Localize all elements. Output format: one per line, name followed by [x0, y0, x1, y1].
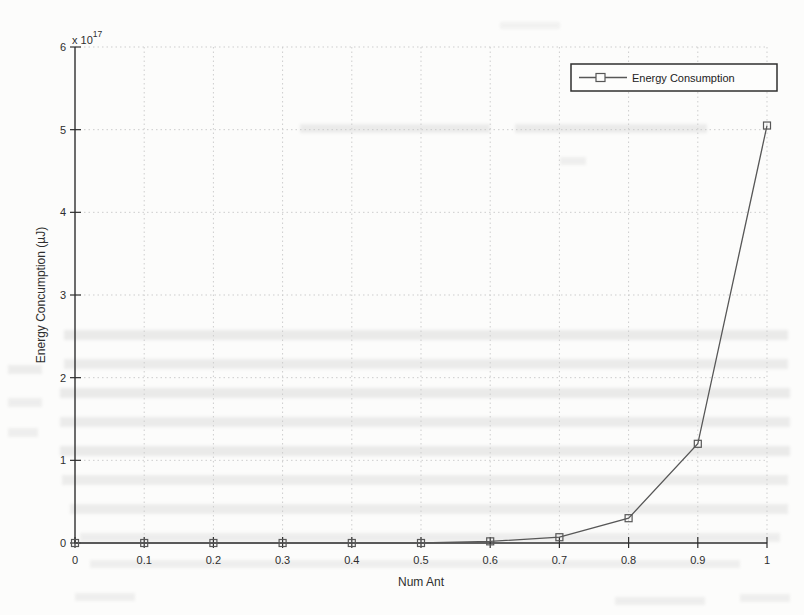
bleedthrough-line	[740, 594, 790, 602]
x-tick-label: 0.1	[137, 554, 152, 566]
x-axis-label: Num Ant	[398, 575, 445, 589]
x-tick-label: 0.4	[344, 554, 359, 566]
x-tick-label: 0.5	[413, 554, 428, 566]
bleedthrough-line	[8, 428, 38, 437]
bleedthrough-line	[8, 365, 42, 374]
bleedthrough-line	[560, 157, 586, 165]
bleedthrough-line	[75, 593, 135, 601]
y-tick-label: 5	[60, 124, 66, 136]
y-tick-label: 4	[60, 206, 66, 218]
legend-marker-icon	[596, 74, 605, 82]
bleedthrough-line	[500, 22, 560, 29]
bleedthrough-line	[8, 398, 42, 407]
y-tick-label: 0	[60, 537, 66, 549]
bleedthrough-text	[8, 22, 790, 605]
energy-consumption-chart: 00.10.20.30.40.50.60.70.80.910123456 Ene…	[0, 0, 804, 615]
y-exponent-value: 17	[93, 29, 103, 39]
bleedthrough-line	[60, 388, 790, 398]
x-tick-label: 0.2	[206, 554, 221, 566]
bleedthrough-line	[80, 533, 780, 542]
y-tick-label: 1	[60, 454, 66, 466]
x-tick-label: 0	[72, 554, 78, 566]
y-tick-label: 2	[60, 372, 66, 384]
x-tick-label: 0.7	[552, 554, 567, 566]
plot-area: 00.10.20.30.40.50.60.70.80.910123456	[60, 41, 771, 566]
legend: Energy Consumption	[571, 64, 777, 91]
bleedthrough-line	[64, 359, 788, 369]
x-tick-label: 0.9	[690, 554, 705, 566]
bleedthrough-line	[615, 597, 705, 605]
scanned-page: 00.10.20.30.40.50.60.70.80.910123456 Ene…	[0, 0, 804, 615]
y-axis-label: Energy Concumption (µJ)	[34, 227, 48, 363]
bleedthrough-line	[70, 504, 788, 514]
legend-label: Energy Consumption	[632, 72, 735, 84]
x-tick-label: 0.3	[275, 554, 290, 566]
bleedthrough-line	[64, 330, 788, 340]
bleedthrough-line	[300, 124, 490, 133]
y-tick-label: 6	[60, 41, 66, 53]
bleedthrough-line	[60, 446, 790, 456]
bleedthrough-line	[62, 475, 788, 485]
x-tick-label: 0.6	[483, 554, 498, 566]
x-tick-label: 0.8	[621, 554, 636, 566]
y-tick-label: 3	[60, 289, 66, 301]
y-exponent-prefix: x 10	[72, 34, 93, 46]
bleedthrough-line	[515, 124, 707, 133]
y-exponent-label: x 1017	[72, 29, 103, 46]
bleedthrough-line	[60, 417, 790, 427]
x-tick-label: 1	[764, 554, 770, 566]
